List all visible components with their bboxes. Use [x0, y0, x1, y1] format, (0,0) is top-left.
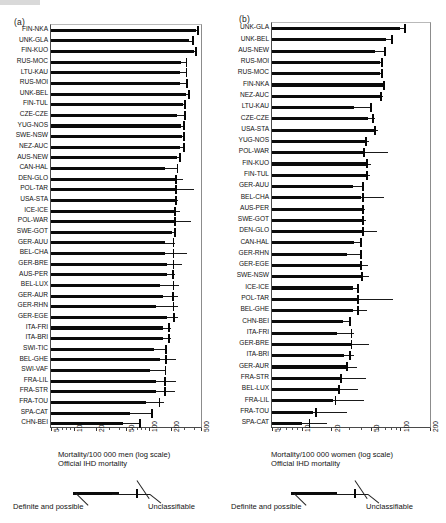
official-ihd-tick	[349, 317, 351, 326]
bar-row	[51, 195, 201, 206]
legend-unclassifiable-label: Unclassifiable	[148, 503, 195, 511]
category-label: CHN-BEI	[21, 419, 48, 426]
panel-a: (a) FIN-NKAUNK-GLAFIN-KUORUS-MOCLTU-KAUR…	[0, 0, 223, 523]
bar-row	[51, 355, 201, 366]
definite-possible-bar	[51, 188, 177, 191]
category-label: ITA-BRI	[246, 351, 269, 358]
panel-a-category-labels: FIN-NKAUNK-GLAFIN-KUORUS-MOCLTU-KAURUS-M…	[0, 24, 48, 428]
definite-possible-bar	[272, 174, 368, 177]
bar-row	[272, 361, 430, 372]
bar-row	[51, 227, 201, 238]
official-ihd-tick	[381, 69, 383, 78]
definite-possible-bar	[272, 151, 363, 154]
category-label: GER-EGE	[239, 261, 269, 268]
definite-possible-bar	[51, 82, 180, 85]
category-label: FRA-STR	[20, 387, 48, 394]
category-label: FRA-STR	[241, 374, 269, 381]
unclassifiable-range	[166, 317, 178, 318]
category-label: FIN-KUO	[242, 160, 269, 167]
official-ihd-tick	[184, 111, 186, 120]
bar-row	[51, 386, 201, 397]
x-tick	[149, 428, 150, 431]
unclassifiable-range	[362, 276, 369, 277]
official-ihd-tick	[168, 323, 170, 332]
x-tick	[331, 428, 332, 431]
x-minor-tick	[297, 428, 298, 430]
x-tick-label: 100	[152, 421, 159, 432]
definite-possible-bar	[51, 422, 123, 425]
x-minor-tick	[62, 428, 63, 430]
x-minor-tick	[57, 428, 58, 430]
bar-row	[272, 305, 430, 316]
official-ihd-tick	[361, 272, 363, 281]
bar-row	[272, 373, 430, 384]
bar-row	[272, 158, 430, 169]
official-ihd-tick	[174, 217, 176, 226]
official-ihd-tick	[173, 302, 175, 311]
bar-row	[51, 365, 201, 376]
category-label: FRA-TOU	[19, 398, 48, 405]
bar-row	[51, 184, 201, 195]
category-label: ITA-FRI	[247, 329, 269, 336]
definite-possible-bar	[51, 135, 182, 138]
panel-a-axis-caption-1: Mortality/100 000 men (log scale)	[58, 450, 170, 459]
x-tick	[126, 428, 127, 431]
bar-row	[272, 282, 430, 293]
bar-row	[272, 328, 430, 339]
definite-possible-bar	[51, 412, 130, 415]
bar-row	[51, 142, 201, 153]
definite-possible-bar	[51, 220, 175, 223]
category-label: BEL-LUX	[242, 385, 269, 392]
definite-possible-bar	[51, 178, 177, 181]
definite-possible-bar	[272, 83, 384, 86]
bar-row	[51, 131, 201, 142]
category-label: FIN-KUO	[21, 47, 48, 54]
definite-possible-bar	[51, 390, 156, 393]
category-label: UNK-BEL	[20, 90, 48, 97]
x-minor-tick	[145, 428, 146, 430]
definite-possible-bar	[272, 72, 380, 75]
definite-possible-bar	[51, 39, 189, 42]
unclassifiable-range	[164, 253, 188, 254]
bar-row	[272, 237, 430, 248]
x-minor-tick	[119, 428, 120, 430]
x-minor-tick	[280, 428, 281, 430]
category-label: BEL-GHE	[240, 306, 269, 313]
category-label: LTU-KAU	[242, 103, 269, 110]
definite-possible-bar	[272, 27, 400, 30]
category-label: BEL-GHE	[19, 356, 48, 363]
category-label: UNK-GLA	[19, 37, 48, 44]
official-ihd-tick	[383, 81, 385, 90]
category-label: SPA-CAT	[21, 409, 48, 416]
category-label: GER-BRE	[239, 340, 269, 347]
official-ihd-tick	[340, 374, 342, 383]
official-ihd-tick	[184, 100, 186, 109]
official-ihd-tick	[165, 355, 167, 364]
official-ihd-tick	[357, 295, 359, 304]
unclassifiable-range	[332, 400, 364, 401]
bar-row	[51, 68, 201, 79]
panel-b-category-labels: UNK-GLAUNK-BELAUS-NEWRUS-MOIRUS-MOCFIN-N…	[223, 22, 269, 428]
x-tick-label: 100	[404, 421, 411, 432]
unclassifiable-range	[162, 296, 178, 297]
bar-row	[51, 312, 201, 323]
bar-row	[51, 99, 201, 110]
x-minor-tick	[349, 428, 350, 430]
category-label: SWE-GOT	[238, 216, 269, 223]
bar-row	[272, 34, 430, 45]
definite-possible-bar	[51, 316, 167, 319]
category-label: FRA-TOU	[240, 408, 269, 415]
official-ihd-tick	[384, 47, 386, 56]
official-ihd-tick	[173, 249, 175, 258]
category-label: CZE-CZE	[241, 115, 269, 122]
x-minor-tick	[378, 428, 379, 430]
official-ihd-tick	[372, 114, 374, 123]
official-ihd-tick	[349, 351, 351, 360]
category-label: RUS-MOC	[238, 69, 269, 76]
unclassifiable-range	[129, 413, 152, 414]
definite-possible-bar	[272, 422, 302, 425]
official-ihd-tick	[164, 387, 166, 396]
definite-possible-bar	[272, 95, 380, 98]
definite-possible-bar	[272, 196, 361, 199]
category-label: AUS-PER	[240, 205, 269, 212]
